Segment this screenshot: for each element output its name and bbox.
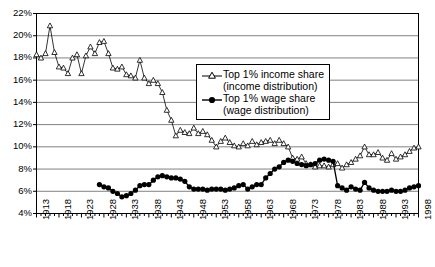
x-axis-tick-label: 1993 [400,198,410,219]
y-axis-tick-label: 4% [0,208,32,218]
x-axis-tick-label: 1918 [63,198,73,219]
x-axis-tick-label: 1913 [41,198,51,219]
chart-legend: Top 1% income share (income distribution… [196,64,330,120]
filled-circle-icon [201,92,223,104]
x-axis-tick-label: 1923 [85,198,95,219]
y-axis-tick-label: 12% [0,119,32,129]
x-axis-tick-label: 1938 [153,198,163,219]
y-axis-tick-label: 14% [0,97,32,107]
y-axis-tick-label: 18% [0,52,32,62]
legend-label-income: Top 1% income share [223,68,324,80]
x-axis-tick-label: 1943 [175,198,185,219]
x-axis-tick-label: 1968 [288,198,298,219]
x-axis-tick-label: 1988 [378,198,388,219]
x-axis-tick-label: 1928 [108,198,118,219]
x-axis-tick-label: 1953 [220,198,230,219]
chart-container: 4%6%8%10%12%14%16%18%20%22% 191319181923… [0,0,435,267]
chart-plot-area [0,0,435,267]
y-axis-tick-label: 22% [0,8,32,18]
x-axis-tick-label: 1973 [310,198,320,219]
open-triangle-icon [201,68,223,80]
y-axis-tick-label: 20% [0,30,32,40]
x-axis-tick-label: 1998 [423,198,433,219]
legend-entry-income: Top 1% income share [201,68,324,80]
x-axis-tick-label: 1948 [198,198,208,219]
x-axis-tick-label: 1963 [265,198,275,219]
y-axis-tick-label: 10% [0,141,32,151]
x-axis-tick-label: 1978 [333,198,343,219]
legend-label-wage: Top 1% wage share [223,92,315,104]
x-axis-tick-label: 1958 [243,198,253,219]
legend-entry-wage: Top 1% wage share [201,92,324,104]
y-axis-tick-label: 6% [0,186,32,196]
series-wage-share [97,156,421,199]
y-axis-tick-label: 8% [0,164,32,174]
x-axis-tick-label: 1983 [355,198,365,219]
y-axis-tick-label: 16% [0,75,32,85]
x-axis-tick-label: 1933 [130,198,140,219]
